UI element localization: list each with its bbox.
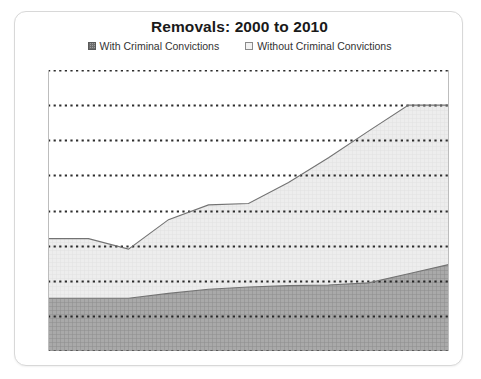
- chart-title: Removals: 2000 to 2010: [15, 18, 464, 36]
- legend-item-with-criminal-convictions: With Criminal Convictions: [88, 40, 220, 52]
- chart-legend: With Criminal Convictions Without Crimin…: [15, 40, 464, 52]
- plot-area: [48, 70, 449, 351]
- legend-swatch-dark-hatched-square-icon: [88, 42, 96, 50]
- legend-swatch-light-outlined-square-icon: [245, 42, 253, 50]
- legend-label-without-criminal-convictions: Without Criminal Convictions: [257, 40, 391, 52]
- chart-plot-svg: [48, 70, 449, 351]
- legend-item-without-criminal-convictions: Without Criminal Convictions: [245, 40, 391, 52]
- legend-label-with-criminal-convictions: With Criminal Convictions: [100, 40, 220, 52]
- chart-card: Removals: 2000 to 2010 With Criminal Con…: [14, 11, 463, 366]
